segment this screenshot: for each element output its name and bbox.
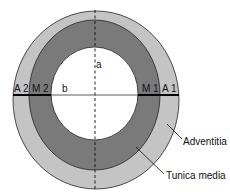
segment-label-a2: A 2 [14, 83, 29, 94]
axis-label-b: b [62, 83, 68, 94]
axis-label-a: a [96, 59, 102, 70]
segment-label-m1: M 1 [142, 83, 159, 94]
callout-adventitia: Adventitia [183, 136, 227, 147]
segment-label-a1: A 1 [162, 83, 177, 94]
vessel-diagram: a b A 2 M 2 M 1 A 1 Adventitia Tunica me… [0, 0, 230, 192]
segment-label-m2: M 2 [32, 83, 49, 94]
callout-tunica-media: Tunica media [166, 170, 226, 181]
